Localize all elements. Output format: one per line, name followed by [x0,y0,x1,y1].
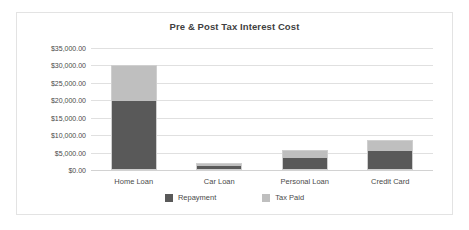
legend-label: Tax Paid [275,193,304,202]
bar-segment-repayment[interactable] [283,158,327,169]
legend-label: Repayment [178,193,216,202]
bar-home-loan[interactable] [111,65,157,170]
x-axis-tick-label: Credit Card [371,177,409,186]
bar-segment-tax-paid[interactable] [112,66,156,101]
x-axis-tick-label: Car Loan [204,177,235,186]
bar-segment-tax-paid[interactable] [283,151,327,159]
y-axis-tick-label: $25,000.00 [51,79,86,86]
gridline [91,48,433,49]
bar-segment-repayment[interactable] [368,151,412,169]
plot-area: $0.00$5,000.00$10,000.00$15,000.00$20,00… [91,48,433,170]
y-axis-tick-label: $10,000.00 [51,132,86,139]
chart-title: Pre & Post Tax Interest Cost [17,21,452,32]
chart-legend: RepaymentTax Paid [17,193,452,202]
x-axis-tick-label: Home Loan [114,177,153,186]
y-axis-tick-label: $35,000.00 [51,45,86,52]
y-axis-tick-label: $0.00 [68,167,86,174]
legend-item-tax-paid[interactable]: Tax Paid [262,193,304,202]
legend-swatch-icon [165,194,173,202]
chart-container: Pre & Post Tax Interest Cost $0.00$5,000… [16,12,453,215]
bar-car-loan[interactable] [196,163,242,170]
y-axis-tick-label: $15,000.00 [51,114,86,121]
bar-segment-repayment[interactable] [197,166,241,169]
bar-personal-loan[interactable] [282,150,328,170]
y-axis-tick-label: $5,000.00 [55,149,86,156]
legend-item-repayment[interactable]: Repayment [165,193,216,202]
bar-segment-tax-paid[interactable] [368,141,412,151]
y-axis-tick-label: $30,000.00 [51,62,86,69]
bar-credit-card[interactable] [367,140,413,170]
x-axis-tick-label: Personal Loan [281,177,329,186]
y-axis-tick-label: $20,000.00 [51,97,86,104]
gridline [91,170,433,171]
bar-segment-repayment[interactable] [112,101,156,169]
legend-swatch-icon [262,194,270,202]
